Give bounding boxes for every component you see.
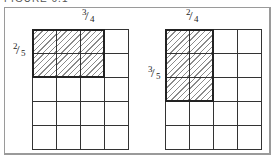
fraction-slash: / xyxy=(151,66,155,79)
grid-cell-shaded xyxy=(80,29,104,53)
grid-cell-shaded xyxy=(165,77,189,101)
grid-cell xyxy=(213,29,237,53)
grid-cell-shaded xyxy=(165,53,189,77)
grid-cell xyxy=(32,77,56,101)
grid-cell xyxy=(80,77,104,101)
grid-cell xyxy=(104,125,128,149)
fraction-denominator: 4 xyxy=(90,15,95,24)
grid-cell xyxy=(213,125,237,149)
grid-cell xyxy=(56,77,80,101)
grid-cell xyxy=(104,53,128,77)
left-area-grid xyxy=(32,29,129,150)
grid-cell xyxy=(213,77,237,101)
grid-cell xyxy=(32,125,56,149)
grid-cell-shaded xyxy=(189,77,213,101)
grid-cell-shaded xyxy=(56,29,80,53)
grid-cell xyxy=(237,29,261,53)
grid-cell xyxy=(32,101,56,125)
fraction-denominator: 4 xyxy=(194,15,199,24)
grid-cell xyxy=(56,125,80,149)
fraction-slash: / xyxy=(16,43,20,56)
grid-cell xyxy=(213,53,237,77)
grid-cell xyxy=(104,101,128,125)
fraction-slash: / xyxy=(189,9,193,22)
grid-cell-shaded xyxy=(32,53,56,77)
figure-caption: FIGURE 6.1 xyxy=(4,0,68,4)
grid-cell xyxy=(189,125,213,149)
grid-cell xyxy=(213,101,237,125)
grid-cell xyxy=(80,101,104,125)
grid-cell-shaded xyxy=(32,29,56,53)
grid-cell xyxy=(104,77,128,101)
fraction-slash: / xyxy=(85,9,89,22)
fraction-denominator: 5 xyxy=(21,49,26,58)
grid-cell-shaded xyxy=(189,53,213,77)
grid-cell xyxy=(80,125,104,149)
grid-cell xyxy=(56,101,80,125)
grid-cell xyxy=(237,101,261,125)
fraction-denominator: 5 xyxy=(156,72,161,81)
grid-cell-shaded xyxy=(80,53,104,77)
grid-cell xyxy=(237,53,261,77)
grid-cell xyxy=(165,101,189,125)
grid-cell xyxy=(237,125,261,149)
grid-cell xyxy=(237,77,261,101)
grid-cell-shaded xyxy=(165,29,189,53)
grid-cell xyxy=(104,29,128,53)
right-area-grid xyxy=(165,29,262,150)
grid-cell-shaded xyxy=(189,29,213,53)
grid-cell-shaded xyxy=(56,53,80,77)
grid-cell xyxy=(165,125,189,149)
grid-cell xyxy=(189,101,213,125)
